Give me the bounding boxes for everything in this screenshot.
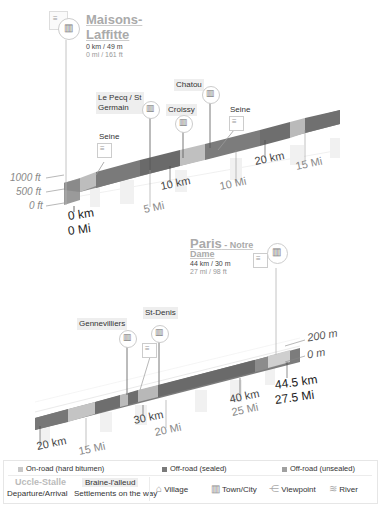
place-label-seine-2: Seine <box>228 104 252 116</box>
legend-vdivider <box>149 477 150 501</box>
end-title-line2: Dame <box>190 249 215 259</box>
onroad-swatch <box>18 467 23 472</box>
legend: On-road (hard bitumen) Off-road (sealed)… <box>3 460 378 504</box>
village-label: Village <box>164 485 188 494</box>
onroad-label: On-road (hard bitumen) <box>26 464 104 473</box>
legend-viewpoint: ⋲ Viewpoint <box>269 483 316 494</box>
y-axis-0ft: 0 ft <box>29 200 43 211</box>
legend-offroad-sealed: Off-road (sealed) <box>162 464 227 473</box>
viewpoint-icon: ≡ <box>53 14 58 23</box>
offroad-unsealed-swatch <box>282 467 287 472</box>
offroad-sealed-label: Off-road (sealed) <box>170 464 227 473</box>
town-icon: ▥ <box>179 117 188 127</box>
legend-onroad: On-road (hard bitumen) <box>18 464 104 473</box>
place-label-gennevilliers: Gennevilliers <box>77 318 127 330</box>
river-icon: ≡ <box>100 144 105 153</box>
village-icon: ⌂ <box>156 483 162 494</box>
place-label-le-pecq: Le Pecq / St Germain <box>96 92 144 114</box>
town-icon: ▥ <box>146 103 155 113</box>
start-title-line2: Laffitte <box>86 27 129 42</box>
place-label-le-pecq-l1: Le Pecq / St <box>98 93 142 102</box>
y-axis-500ft: 500 ft <box>16 186 41 197</box>
legend-divider <box>8 475 372 476</box>
town-icon: ▥ <box>211 483 220 494</box>
start-title-line1: Maisons- <box>86 12 142 27</box>
offroad-sealed-swatch <box>162 467 167 472</box>
viewpoint-label: Viewpoint <box>281 485 316 494</box>
place-label-chatou: Chatou <box>174 79 204 91</box>
settlement-label: Settlements on the way <box>74 489 157 498</box>
end-distance-imperial: 27 mi / 98 ft <box>190 268 227 276</box>
offroad-unsealed-label: Off-road (unsealed) <box>290 464 355 473</box>
place-label-seine-1: Seine <box>97 131 121 143</box>
start-distance: 0 km / 49 m <box>86 43 123 51</box>
y-axis-1000ft: 1000 ft <box>10 172 41 183</box>
town-icon: ▥ <box>206 88 215 98</box>
river-label: River <box>339 485 358 494</box>
place-label-st-denis: St-Denis <box>143 307 178 319</box>
town-icon: ▥ <box>155 327 164 337</box>
legend-village: ⌂ Village <box>156 483 188 494</box>
viewpoint-icon: ⋲ <box>269 483 279 494</box>
place-label-le-pecq-l2: Germain <box>98 103 129 112</box>
town-icon: ▥ <box>123 332 132 342</box>
town-label: Town/City <box>222 485 257 494</box>
river-icon: ≡ <box>232 117 237 126</box>
settlement-example: Braine-l'alleud <box>82 478 138 487</box>
legend-town: ▥ Town/City <box>211 483 257 494</box>
start-distance-imperial: 0 mi / 161 ft <box>86 51 123 59</box>
town-icon: ▥ <box>64 22 73 33</box>
legend-offroad-unsealed: Off-road (unsealed) <box>282 464 355 473</box>
river-icon: ≡ <box>145 344 150 353</box>
river-icon: ≋ <box>329 483 337 494</box>
town-icon: ▥ <box>272 246 281 257</box>
end-distance: 44 km / 30 m <box>190 260 230 268</box>
departure-example: Uccle-Stalle <box>15 477 66 487</box>
end-title-rest: - Notre <box>222 240 254 250</box>
legend-river: ≋ River <box>329 483 358 494</box>
departure-label: Departure/Arrival <box>7 489 67 498</box>
river-icon: ≡ <box>256 254 261 263</box>
